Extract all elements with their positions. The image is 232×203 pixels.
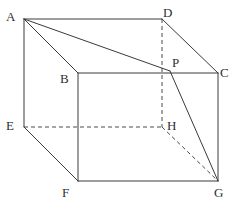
vertex-label-c: C: [220, 66, 229, 79]
edge-a-b: [24, 19, 78, 73]
edge-h-g-hidden: [162, 127, 218, 181]
vertex-label-g: G: [214, 186, 223, 199]
edge-d-c: [162, 19, 218, 73]
edge-p-g: [170, 71, 218, 181]
vertex-label-e: E: [6, 119, 14, 132]
visible-edges-group: [24, 19, 218, 181]
vertex-label-f: F: [62, 186, 69, 199]
figure-canvas: [0, 0, 232, 203]
vertex-label-b: B: [60, 72, 69, 85]
edge-e-f: [24, 127, 78, 181]
vertex-label-d: D: [163, 6, 172, 19]
vertex-label-h: H: [167, 119, 176, 132]
vertex-label-p: P: [172, 56, 179, 69]
vertex-label-a: A: [6, 10, 15, 23]
geometry-figure: ABCDEFGHP: [0, 0, 232, 203]
edge-a-p: [24, 19, 170, 71]
